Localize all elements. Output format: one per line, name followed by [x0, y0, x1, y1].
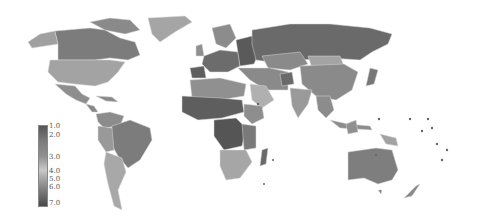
legend-tick: 6.0 [49, 183, 60, 191]
region-horn-of-africa [244, 104, 264, 124]
legend-tick: 1.0 [49, 122, 60, 130]
legend-tick: 3.0 [49, 153, 60, 161]
region-southern-africa [220, 150, 252, 180]
region-peru-bolivia [98, 126, 114, 152]
legend-tick: 5.0 [49, 175, 60, 183]
region-afghanistan [280, 72, 294, 86]
region-india [290, 88, 312, 118]
region-central-america [86, 104, 98, 112]
legend-tick: 7.0 [49, 199, 60, 207]
region-usa [48, 60, 125, 86]
region-new-zealand [404, 184, 420, 198]
region-new-guinea [380, 134, 398, 146]
region-iberia [190, 66, 206, 78]
region-uk [196, 44, 204, 56]
region-caribbean [96, 96, 118, 102]
region-scandinavia [212, 24, 236, 48]
region-greenland [148, 16, 192, 42]
region-japan [366, 68, 378, 86]
region-central-africa [214, 118, 246, 150]
region-borneo [346, 120, 358, 134]
region-east-africa [242, 124, 256, 150]
region-alaska [28, 31, 58, 48]
region-mexico [55, 84, 90, 104]
legend-colorbar [38, 125, 48, 207]
region-madagascar [260, 148, 268, 166]
region-argentina-chile [104, 152, 126, 210]
region-australia [348, 148, 398, 184]
legend-ticks: 1.0 2.0 3.0 4.0 5.0 6.0 7.0 [49, 122, 79, 208]
region-sahel [182, 96, 244, 120]
region-tasmania [378, 190, 382, 194]
world-choropleth-map: 1.0 2.0 3.0 4.0 5.0 6.0 7.0 [0, 0, 477, 219]
region-western-europe [202, 50, 240, 72]
legend-tick: 2.0 [49, 131, 60, 139]
legend-tick: 4.0 [49, 167, 60, 175]
